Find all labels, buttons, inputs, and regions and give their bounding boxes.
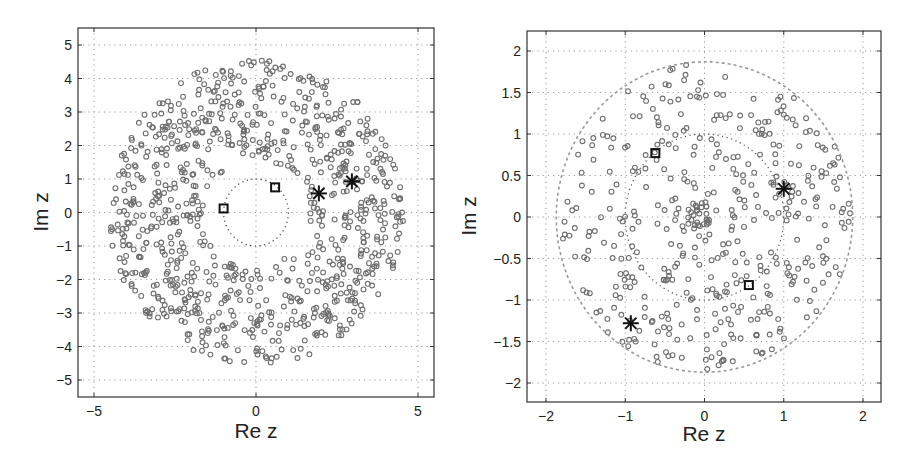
y-tick-label: 5 <box>64 37 72 53</box>
data-point <box>666 142 671 147</box>
data-point <box>204 270 209 275</box>
data-point <box>139 294 144 299</box>
data-point <box>755 317 760 322</box>
data-point <box>323 92 328 97</box>
data-point <box>614 284 619 289</box>
data-point <box>787 200 792 205</box>
data-point <box>227 359 232 364</box>
data-point <box>711 190 716 195</box>
data-point <box>749 183 754 188</box>
data-point <box>213 126 218 131</box>
data-point <box>271 94 276 99</box>
data-point <box>739 305 744 310</box>
data-point <box>609 145 614 150</box>
data-point <box>632 280 637 285</box>
data-point <box>630 244 635 249</box>
data-point <box>163 214 168 219</box>
data-point <box>191 348 196 353</box>
star-marker <box>344 173 360 189</box>
data-point <box>580 139 585 144</box>
data-point <box>769 250 774 255</box>
data-point <box>317 218 322 223</box>
data-point <box>398 185 403 190</box>
data-point <box>715 142 720 147</box>
data-point <box>713 327 718 332</box>
data-point <box>654 354 659 359</box>
data-point <box>179 81 184 86</box>
data-point <box>712 117 717 122</box>
data-point <box>805 315 810 320</box>
data-point <box>358 313 363 318</box>
data-point <box>282 112 287 117</box>
data-point <box>668 176 673 181</box>
data-point <box>774 255 779 260</box>
data-point <box>196 299 201 304</box>
data-point <box>656 329 661 334</box>
data-point <box>332 217 337 222</box>
data-point <box>310 250 315 255</box>
data-point <box>167 119 172 124</box>
data-point <box>749 317 754 322</box>
data-point <box>565 199 570 204</box>
data-point <box>679 355 684 360</box>
data-point <box>385 184 390 189</box>
data-point <box>393 224 398 229</box>
data-point <box>609 189 614 194</box>
data-point <box>289 317 294 322</box>
data-point <box>757 310 762 315</box>
data-point <box>333 180 338 185</box>
data-point <box>756 120 761 125</box>
data-point <box>627 337 632 342</box>
data-point <box>662 208 667 213</box>
data-point <box>655 142 660 147</box>
data-point <box>636 219 641 224</box>
data-point <box>192 274 197 279</box>
data-point <box>223 90 228 95</box>
data-point <box>342 223 347 228</box>
data-point <box>805 256 810 261</box>
data-point <box>360 134 365 139</box>
data-point <box>684 290 689 295</box>
data-point <box>297 278 302 283</box>
data-point <box>770 216 775 221</box>
data-point <box>163 208 168 213</box>
data-point <box>722 342 727 347</box>
data-point <box>388 253 393 258</box>
data-point <box>814 204 819 209</box>
data-point <box>842 226 847 231</box>
data-point <box>731 303 736 308</box>
data-point <box>260 349 265 354</box>
data-point <box>231 313 236 318</box>
data-point <box>215 343 220 348</box>
data-point <box>154 224 159 229</box>
data-point <box>709 355 714 360</box>
data-point <box>206 292 211 297</box>
data-point <box>697 234 702 239</box>
data-point <box>324 79 329 84</box>
data-point <box>757 255 762 260</box>
x-tick-label: 5 <box>414 403 422 419</box>
data-point <box>729 322 734 327</box>
data-point <box>724 282 729 287</box>
data-point <box>824 171 829 176</box>
data-point <box>664 227 669 232</box>
data-point <box>643 153 648 158</box>
data-point <box>665 126 670 131</box>
data-point <box>705 347 710 352</box>
data-point <box>165 146 170 151</box>
data-point <box>740 251 745 256</box>
data-point <box>630 226 635 231</box>
data-point <box>705 288 710 293</box>
data-point <box>846 219 851 224</box>
data-point <box>642 315 647 320</box>
data-point <box>607 206 612 211</box>
data-point <box>197 87 202 92</box>
data-point <box>174 266 179 271</box>
data-point <box>180 290 185 295</box>
data-point <box>183 251 188 256</box>
data-point <box>817 245 822 250</box>
data-point <box>618 272 623 277</box>
data-point <box>117 173 122 178</box>
data-point <box>695 308 700 313</box>
data-point <box>381 227 386 232</box>
